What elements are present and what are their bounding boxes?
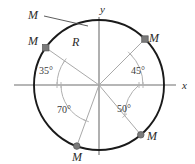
diagram-canvas: x y R M MMMM 35°45°70°50° (0, 0, 195, 164)
circle-diagram: x y R M MMMM 35°45°70°50° (0, 0, 195, 164)
radius-line-upper-left (46, 48, 99, 85)
angle-arc-lower-left (61, 85, 86, 121)
angle-arc-upper-left (57, 61, 65, 85)
point-marker-lower-right (137, 131, 144, 138)
point-label-lower-left: M (71, 150, 83, 164)
point-marker-lower-left (73, 143, 80, 150)
y-axis-label: y (99, 3, 105, 15)
arc-tick (63, 58, 66, 63)
angle-labels-group: 35°45°70°50° (39, 65, 145, 115)
point-marker-upper-right (142, 36, 148, 42)
point-label-upper-right: M (148, 31, 160, 45)
callout-point-label: M (27, 8, 39, 22)
angle-label-1: 45° (131, 65, 145, 76)
angle-label-3: 50° (117, 103, 131, 114)
point-marker-upper-left (43, 45, 49, 51)
radius-label: R (71, 35, 80, 49)
callout-leader-line (44, 16, 88, 26)
radius-line-upper-right (99, 39, 145, 85)
radius-lines-group (46, 39, 145, 146)
angle-label-2: 70° (57, 104, 71, 115)
point-label-lower-right: M (146, 129, 158, 143)
point-label-upper-left: M (27, 34, 39, 48)
x-axis-label: x (181, 79, 187, 91)
radius-line-lower-left (77, 85, 99, 146)
angle-label-0: 35° (39, 65, 53, 76)
